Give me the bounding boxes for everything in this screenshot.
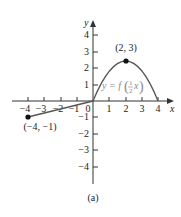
svg-text:3: 3: [84, 46, 89, 57]
svg-text:−1: −1: [78, 111, 89, 122]
point-endpoint: [25, 114, 30, 119]
annotation-max: (2, 3): [115, 42, 137, 54]
svg-text:1: 1: [84, 79, 89, 90]
y-axis-arrow-icon: [90, 20, 96, 27]
svg-text:1: 1: [107, 103, 112, 114]
svg-text:−2: −2: [78, 128, 89, 139]
svg-text:2: 2: [124, 103, 129, 114]
svg-text:2: 2: [129, 87, 133, 95]
point-max: [123, 58, 128, 63]
svg-text:4: 4: [84, 29, 89, 40]
y-axis-label: y: [83, 17, 89, 28]
x-axis-label: x: [169, 103, 175, 114]
svg-text:3: 3: [140, 103, 145, 114]
x-tick-labels: −4 −3 −2 −1 0 1 2 3 4: [20, 103, 161, 114]
function-label: y = f ( 1 2 x ): [101, 79, 144, 95]
svg-text:−4: −4: [78, 161, 89, 172]
graph: −4 −3 −2 −1 0 1 2 3 4 x 4 3 2 1 −1 −2 −3…: [0, 0, 181, 217]
svg-text:4: 4: [156, 103, 161, 114]
svg-text:−4: −4: [20, 103, 31, 114]
svg-text:1: 1: [129, 79, 133, 87]
svg-text:−3: −3: [78, 144, 89, 155]
svg-text:2: 2: [84, 62, 89, 73]
svg-text:): ): [139, 79, 144, 95]
caption: (a): [87, 192, 98, 204]
svg-text:y = f: y = f: [101, 80, 122, 91]
annotation-endpoint: (−4, −1): [24, 121, 57, 133]
